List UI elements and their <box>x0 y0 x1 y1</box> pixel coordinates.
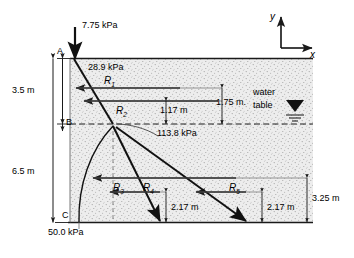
label-r2-index: 2 <box>123 111 127 118</box>
coordinate-axes <box>281 17 312 48</box>
label-point-b: B <box>66 118 72 127</box>
label-surcharge-pressure: 7.75 kPa <box>82 21 118 30</box>
label-upper-depth: 3.5 m <box>12 86 35 95</box>
label-axis-y: y <box>270 12 275 22</box>
label-r5: R5 <box>229 183 240 196</box>
label-point-c: C <box>62 211 69 220</box>
label-dim-3-25: 3.25 m <box>312 194 340 203</box>
label-water-table-line1: water <box>253 88 275 97</box>
label-axis-x: x <box>310 50 315 60</box>
label-r4: R4 <box>143 183 154 196</box>
label-dim-1-75: 1.75 m. <box>216 98 246 107</box>
label-pressure-at-c: 50.0 kPa <box>48 228 84 237</box>
label-r4-index: 4 <box>150 188 154 195</box>
label-point-a: A <box>57 47 63 56</box>
figure-canvas: 7.75 kPa A B C 3.5 m 6.5 m 28.9 kPa 113.… <box>0 0 354 258</box>
label-r5-index: 5 <box>236 188 240 195</box>
label-dim-1-17: 1.17 m <box>160 106 188 115</box>
depth-dimension-group <box>53 59 70 223</box>
label-r1-index: 1 <box>111 81 115 88</box>
label-dim-2-17-right: 2.17 m <box>267 203 295 212</box>
label-r3-index: 3 <box>120 188 124 195</box>
label-r2: R2 <box>116 106 127 119</box>
label-r3: R3 <box>113 183 124 196</box>
label-r1: R1 <box>104 76 115 89</box>
label-pressure-at-b: 113.8 kPa <box>157 129 197 138</box>
label-lower-depth: 6.5 m <box>12 167 35 176</box>
label-dim-2-17-left: 2.17 m <box>171 203 199 212</box>
label-pressure-at-a: 28.9 kPa <box>88 63 124 72</box>
label-water-table-line2: table <box>253 101 273 110</box>
